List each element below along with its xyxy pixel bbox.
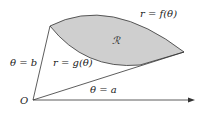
label-inner-curve: r = g(θ) xyxy=(53,57,93,68)
label-ray-b: θ = b xyxy=(10,57,37,68)
diagram-svg: r = f(θ) ℛ θ = b r = g(θ) θ = a O xyxy=(0,0,201,114)
axis-arrow-icon xyxy=(188,98,195,103)
label-region: ℛ xyxy=(112,35,121,46)
label-outer-curve: r = f(θ) xyxy=(140,8,177,19)
polar-region-diagram: r = f(θ) ℛ θ = b r = g(θ) θ = a O xyxy=(0,0,201,114)
label-origin: O xyxy=(20,95,28,106)
label-ray-a: θ = a xyxy=(90,84,117,95)
